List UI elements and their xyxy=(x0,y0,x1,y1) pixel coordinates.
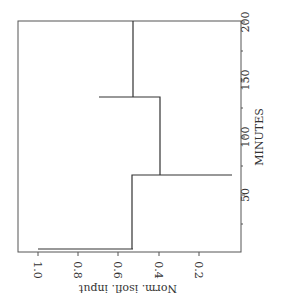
chart-canvas: 50 100 150 200 MINUTES 1.0 0.8 0.6 0.4 0… xyxy=(0,0,283,308)
value-tick-labels: 1.0 0.8 0.6 0.4 0.2 xyxy=(31,261,205,279)
value-axis-ticks xyxy=(38,252,199,256)
value-tick-0.4: 0.4 xyxy=(152,261,165,279)
value-tick-0.8: 0.8 xyxy=(71,261,84,279)
time-tick-50: 50 xyxy=(239,188,252,202)
isoflurane-input-trace xyxy=(38,21,232,249)
value-tick-1.0: 1.0 xyxy=(31,261,44,279)
time-tick-200: 200 xyxy=(239,12,252,33)
value-axis-label: Norm. isofl. input xyxy=(78,282,177,295)
value-tick-0.6: 0.6 xyxy=(111,261,124,279)
time-axis-label: MINUTES xyxy=(253,108,266,165)
plot-frame xyxy=(18,21,241,252)
time-tick-100: 100 xyxy=(239,127,252,148)
time-tick-150: 150 xyxy=(239,70,252,91)
value-tick-0.2: 0.2 xyxy=(192,261,205,279)
